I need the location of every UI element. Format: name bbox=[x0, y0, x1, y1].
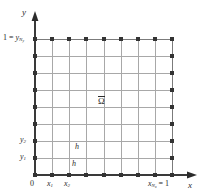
node-marker bbox=[170, 54, 174, 58]
grid-diagram-figure: y x 0 x1 x2 xNx = 1 y1 y2 1 = yNy Ω h h bbox=[0, 0, 208, 195]
spacing-label-lower: h bbox=[72, 160, 76, 168]
node-marker bbox=[33, 88, 37, 92]
y-tick-label-last: 1 = yNy bbox=[3, 34, 24, 43]
node-marker bbox=[153, 173, 157, 177]
node-marker bbox=[67, 173, 71, 177]
node-marker bbox=[33, 54, 37, 58]
y-axis-arrow-icon bbox=[32, 11, 39, 21]
x-tick-last-suffix: = 1 bbox=[156, 179, 169, 188]
y-tick-last-subsub: y bbox=[22, 39, 24, 43]
node-marker bbox=[170, 71, 174, 75]
domain-closure-symbol: Ω bbox=[98, 96, 105, 106]
node-marker bbox=[136, 37, 140, 41]
x-axis-label: x bbox=[188, 181, 192, 190]
y-tick-last-sub: Ny bbox=[19, 37, 24, 42]
node-marker bbox=[67, 37, 71, 41]
node-marker bbox=[170, 173, 174, 177]
node-marker bbox=[136, 173, 140, 177]
node-marker bbox=[33, 71, 37, 75]
x-axis-arrow-icon bbox=[187, 172, 197, 179]
node-marker bbox=[33, 37, 37, 41]
node-marker bbox=[102, 173, 106, 177]
domain-closure-label: Ω bbox=[98, 96, 105, 106]
node-marker bbox=[102, 37, 106, 41]
origin-label: 0 bbox=[30, 180, 34, 188]
x-tick-label-last: xNx = 1 bbox=[148, 180, 169, 189]
x-tick-label-1: x1 bbox=[47, 180, 53, 189]
node-marker bbox=[170, 139, 174, 143]
node-marker bbox=[50, 173, 54, 177]
spacing-label-upper: h bbox=[75, 143, 79, 151]
node-marker bbox=[119, 173, 123, 177]
x-tick-1-sub: 1 bbox=[51, 183, 53, 188]
node-marker bbox=[50, 37, 54, 41]
node-marker bbox=[33, 139, 37, 143]
y-tick-1-sub: 1 bbox=[24, 156, 26, 161]
node-marker bbox=[33, 156, 37, 160]
node-marker bbox=[170, 156, 174, 160]
y-tick-label-1: y1 bbox=[20, 153, 26, 162]
x-tick-label-2: x2 bbox=[64, 180, 70, 189]
node-marker bbox=[119, 37, 123, 41]
y-tick-label-2: y2 bbox=[20, 136, 26, 145]
y-tick-2-sub: 2 bbox=[24, 139, 26, 144]
y-tick-last-prefix: 1 = bbox=[3, 33, 16, 42]
node-marker bbox=[33, 122, 37, 126]
node-marker bbox=[170, 37, 174, 41]
node-marker bbox=[33, 105, 37, 109]
node-marker bbox=[84, 37, 88, 41]
node-marker bbox=[33, 173, 37, 177]
y-axis bbox=[32, 11, 39, 175]
node-marker bbox=[170, 88, 174, 92]
node-marker bbox=[153, 37, 157, 41]
x-tick-2-sub: 2 bbox=[68, 183, 70, 188]
node-marker bbox=[170, 122, 174, 126]
node-marker bbox=[84, 173, 88, 177]
node-marker bbox=[170, 105, 174, 109]
y-axis-label: y bbox=[22, 8, 26, 17]
